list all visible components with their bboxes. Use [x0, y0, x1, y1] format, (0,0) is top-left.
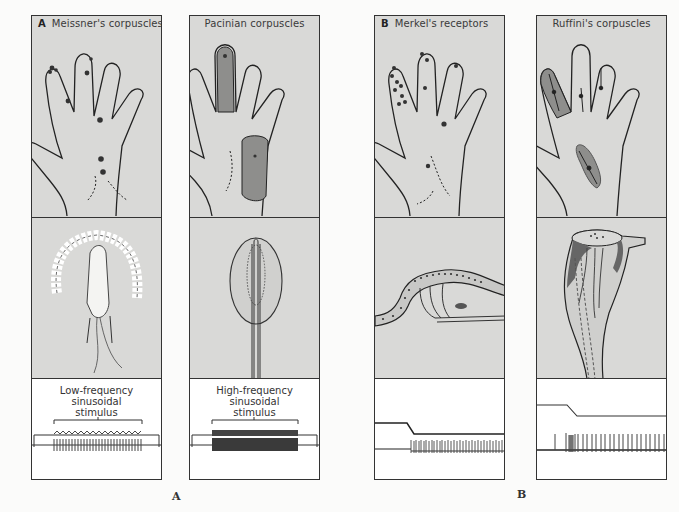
panel-ruffini: Ruffini's corpuscles [536, 15, 667, 480]
hand-icon [537, 16, 666, 218]
anatomy-pacinian [190, 218, 319, 379]
hand-icon [32, 16, 161, 218]
response-trace-pacinian: High-frequency sinusoidal stimulus [190, 379, 319, 478]
panel-pacinian: Pacinian corpuscles High-frequency sinus… [189, 15, 320, 480]
meissner-corpuscle-illustration [32, 218, 161, 379]
response-trace-ruffini [537, 379, 666, 478]
response-trace-merkel [375, 379, 504, 478]
group-letter: B [381, 18, 389, 29]
panel-title: BMerkel's receptors [375, 18, 504, 29]
figure-label-a: A [172, 490, 181, 503]
receptive-field-hand-pacinian: Pacinian corpuscles [190, 16, 319, 218]
group-letter: A [38, 18, 46, 29]
anatomy-ruffini [537, 218, 666, 379]
hand-icon [190, 16, 319, 218]
receptive-field-hand-ruffini: Ruffini's corpuscles [537, 16, 666, 218]
panel-title: AMeissner's corpuscles [32, 18, 161, 29]
hand-icon [375, 16, 504, 218]
figure-label-b: B [517, 488, 526, 501]
spike-train-plot [537, 379, 666, 478]
stimulus-label: Low-frequency sinusoidal stimulus [32, 385, 161, 418]
pacinian-corpuscle-illustration [190, 218, 319, 379]
ruffini-corpuscle-illustration [537, 218, 666, 379]
panel-title: Pacinian corpuscles [190, 18, 319, 29]
response-trace-meissner: Low-frequency sinusoidal stimulus [32, 379, 161, 478]
stimulus-label: High-frequency sinusoidal stimulus [190, 385, 319, 418]
receptive-field-hand-merkel: BMerkel's receptors [375, 16, 504, 218]
panel-meissner: AMeissner's corpuscles Low-frequency sin… [31, 15, 162, 480]
merkel-receptor-illustration [375, 218, 504, 379]
receptive-field-hand-meissner: AMeissner's corpuscles [32, 16, 161, 218]
anatomy-merkel [375, 218, 504, 379]
spike-train-plot [375, 379, 504, 478]
panel-title: Ruffini's corpuscles [537, 18, 666, 29]
anatomy-meissner [32, 218, 161, 379]
panel-merkel: BMerkel's receptors [374, 15, 505, 480]
